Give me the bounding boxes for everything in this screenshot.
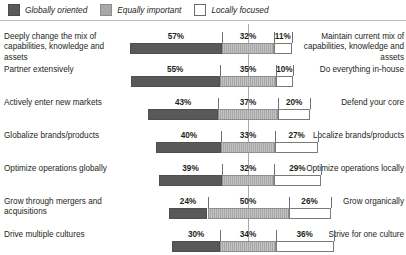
- dark-swatch-icon: [8, 4, 20, 16]
- bar-segment-globally-oriented: [130, 43, 222, 54]
- row-label-left: Optimize operations globally: [4, 164, 120, 174]
- bar-segment-globally-oriented: [156, 142, 221, 153]
- chart-row: Deeply change the mix of capabilities, k…: [0, 26, 406, 59]
- boundary-tick-left: [220, 65, 221, 76]
- value-label-equally-important: 37%: [228, 98, 268, 108]
- chart-row: Actively enter new marketsDefend your co…: [0, 92, 406, 125]
- value-label-globally-oriented: 30%: [176, 230, 216, 240]
- chart-row: Drive multiple culturesStrive for one cu…: [0, 224, 406, 255]
- row-label-left: Actively enter new markets: [4, 98, 120, 108]
- bar-segment-equally-important: [220, 76, 277, 87]
- boundary-tick-left: [221, 131, 222, 142]
- bar-segment-locally-focused: [289, 208, 331, 219]
- value-label-globally-oriented: 55%: [155, 65, 195, 75]
- bar-segment-locally-focused: [274, 175, 321, 186]
- row-label-left: Grow through mergers and acquisitions: [4, 197, 120, 218]
- value-label-equally-important: 35%: [228, 65, 268, 75]
- boundary-tick-left: [222, 164, 223, 175]
- bar-segment-globally-oriented: [148, 109, 218, 120]
- boundary-tick-right: [276, 230, 277, 241]
- bar-segment-equally-important: [218, 109, 278, 120]
- boundary-tick-right: [275, 131, 276, 142]
- bar-segment-equally-important: [221, 142, 274, 153]
- bar-segment-globally-oriented: [159, 175, 222, 186]
- value-label-locally-focused: 29%: [277, 164, 317, 174]
- boundary-tick-end: [321, 164, 322, 175]
- boundary-tick-right: [274, 164, 275, 175]
- boundary-tick-left: [220, 230, 221, 241]
- value-label-globally-oriented: 57%: [156, 32, 196, 42]
- boundary-tick-end: [318, 131, 319, 142]
- value-label-globally-oriented: 43%: [163, 98, 203, 108]
- value-label-locally-focused: 11%: [263, 32, 303, 42]
- value-label-globally-oriented: 24%: [168, 197, 208, 207]
- value-label-equally-important: 50%: [228, 197, 268, 207]
- bar-segment-globally-oriented: [169, 208, 208, 219]
- legend-label-globally-oriented: Globally oriented: [25, 6, 87, 14]
- bar-segment-equally-important: [220, 241, 275, 252]
- value-label-locally-focused: 10%: [264, 65, 304, 75]
- bar-segment-equally-important: [222, 43, 274, 54]
- chart-row: Partner extensivelyDo everything in-hous…: [0, 59, 406, 92]
- boundary-tick-left: [218, 98, 219, 109]
- bar-segment-locally-focused: [274, 43, 292, 54]
- chart-row: Optimize operations globallyOptimize ope…: [0, 158, 406, 191]
- chart-row: Globalize brands/productsLocalize brands…: [0, 125, 406, 158]
- value-label-locally-focused: 26%: [290, 197, 330, 207]
- boundary-tick-end: [331, 197, 332, 208]
- legend-divider: [0, 20, 406, 21]
- legend-item-locally-focused: Locally focused: [194, 4, 268, 16]
- value-label-equally-important: 34%: [228, 230, 268, 240]
- bar-segment-equally-important: [208, 208, 289, 219]
- bar-segment-locally-focused: [276, 241, 334, 252]
- bar-segment-equally-important: [222, 175, 274, 186]
- chart-row: Grow through mergers and acquisitionsGro…: [0, 191, 406, 224]
- value-label-equally-important: 33%: [228, 131, 268, 141]
- value-label-globally-oriented: 39%: [170, 164, 210, 174]
- legend-item-equally-important: Equally important: [100, 4, 181, 16]
- mid-swatch-icon: [100, 4, 112, 16]
- diverging-stacked-bar-chart: Globally oriented Equally important Loca…: [0, 0, 406, 255]
- legend-item-globally-oriented: Globally oriented: [8, 4, 87, 16]
- boundary-tick-left: [222, 32, 223, 43]
- bar-segment-globally-oriented: [172, 241, 221, 252]
- value-label-globally-oriented: 40%: [169, 131, 209, 141]
- light-swatch-icon: [194, 4, 206, 16]
- row-label-left: Drive multiple cultures: [4, 230, 120, 240]
- bar-segment-globally-oriented: [131, 76, 220, 87]
- value-label-equally-important: 32%: [228, 164, 268, 174]
- legend-label-equally-important: Equally important: [117, 6, 181, 14]
- value-label-locally-focused: 27%: [277, 131, 317, 141]
- value-label-locally-focused: 20%: [274, 98, 314, 108]
- chart-legend: Globally oriented Equally important Loca…: [8, 3, 282, 17]
- row-label-left: Globalize brands/products: [4, 131, 120, 141]
- legend-label-locally-focused: Locally focused: [211, 6, 268, 14]
- row-label-left: Partner extensively: [4, 65, 120, 75]
- boundary-tick-end: [334, 230, 335, 241]
- bar-segment-locally-focused: [278, 109, 310, 120]
- plot-area: Deeply change the mix of capabilities, k…: [0, 22, 406, 255]
- value-label-locally-focused: 36%: [285, 230, 325, 240]
- bar-segment-locally-focused: [275, 142, 319, 153]
- bar-segment-locally-focused: [276, 76, 292, 87]
